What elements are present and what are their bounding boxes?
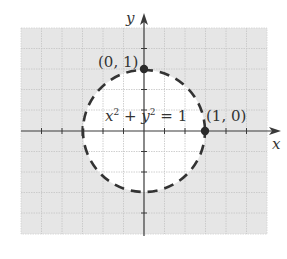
x-axis-label: x (272, 135, 281, 153)
point-1-0 (201, 127, 209, 135)
point-label-0-1: (0, 1) (98, 53, 138, 71)
circle-graph: y x (0, 1) (1, 0) x2 + y2 = 1 (0, 0, 287, 259)
point-label-1-0: (1, 0) (206, 107, 246, 125)
point-0-1 (140, 65, 148, 73)
y-axis-label: y (125, 9, 135, 27)
